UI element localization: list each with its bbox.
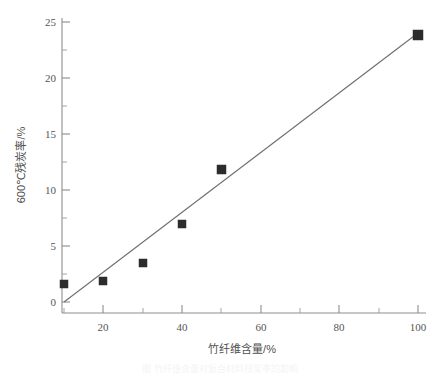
data-point-10	[60, 280, 68, 288]
x-tick-label-40: 40	[177, 321, 189, 333]
y-tick-label-20: 20	[45, 72, 57, 84]
data-point-markers	[60, 30, 423, 288]
y-axis-title: 600℃残炭率/%	[14, 127, 27, 204]
y-tick-label-15: 15	[45, 128, 57, 140]
data-point-50	[217, 165, 226, 174]
x-tick-label-60: 60	[256, 321, 268, 333]
x-axis-minor-ticks	[64, 308, 379, 313]
x-axis-major-ticks	[103, 305, 418, 313]
x-tick-label-80: 80	[334, 321, 346, 333]
x-tick-label-20: 20	[98, 321, 110, 333]
y-axis-tick-labels: 25 20 15 10 5 0	[45, 16, 57, 308]
data-point-30	[139, 259, 147, 267]
linear-fit-line	[64, 33, 418, 302]
data-point-20	[99, 277, 107, 285]
scatter-plot-canvas: 25 20 15 10 5 0 20 40 60 80 100	[0, 0, 440, 375]
data-point-40	[178, 220, 186, 228]
y-tick-label-25: 25	[45, 16, 57, 28]
chart-figure: 25 20 15 10 5 0 20 40 60 80 100	[0, 0, 440, 375]
x-axis-title: 竹纤维含量/%	[208, 342, 276, 355]
x-axis-tick-labels: 20 40 60 80 100	[98, 321, 427, 333]
y-tick-label-10: 10	[45, 184, 57, 196]
y-tick-label-0: 0	[51, 296, 57, 308]
x-tick-label-100: 100	[410, 321, 427, 333]
data-point-100	[413, 30, 423, 40]
figure-caption-partial: 图 竹纤维含量对复合材料残炭率的影响	[0, 364, 440, 375]
y-axis-minor-ticks	[62, 50, 67, 274]
y-tick-label-5: 5	[51, 240, 57, 252]
